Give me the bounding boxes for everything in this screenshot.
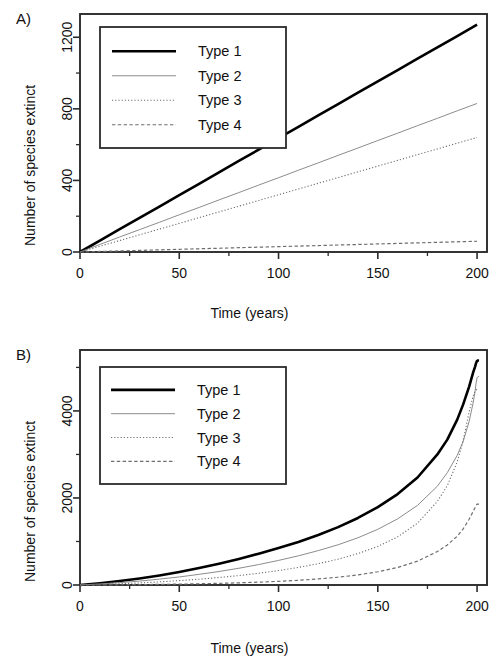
panel-a-plot: 05010015020004008001200Type 1Type 2Type … bbox=[0, 0, 499, 330]
y-tick-label: 0 bbox=[59, 248, 75, 256]
y-tick-label: 400 bbox=[59, 169, 75, 193]
series-line-type-4 bbox=[80, 241, 477, 252]
legend-label-type-4: Type 4 bbox=[198, 117, 242, 133]
x-tick-label: 0 bbox=[76, 265, 84, 281]
x-tick-label: 50 bbox=[171, 598, 187, 614]
y-axis-ticks: 020004000 bbox=[59, 367, 80, 588]
x-tick-label: 50 bbox=[171, 265, 187, 281]
x-tick-label: 200 bbox=[465, 598, 489, 614]
x-tick-label: 100 bbox=[267, 598, 291, 614]
x-tick-label: 150 bbox=[366, 265, 390, 281]
legend: Type 1Type 2Type 3Type 4 bbox=[100, 27, 286, 148]
panel-a-y-axis-label: Number of species extinct bbox=[22, 85, 38, 246]
panel-a-x-axis-label: Time (years) bbox=[0, 305, 499, 321]
y-tick-label: 0 bbox=[59, 581, 75, 589]
x-tick-label: 100 bbox=[267, 265, 291, 281]
legend-label-type-3: Type 3 bbox=[198, 92, 242, 108]
series-line-type-4 bbox=[80, 504, 479, 585]
y-tick-label: 4000 bbox=[59, 395, 75, 426]
legend-box bbox=[100, 367, 286, 484]
x-tick-label: 150 bbox=[366, 598, 390, 614]
legend-label-type-1: Type 1 bbox=[197, 382, 241, 398]
y-tick-label: 800 bbox=[59, 97, 75, 121]
panel-b-x-axis-label: Time (years) bbox=[0, 640, 499, 656]
legend-label-type-2: Type 2 bbox=[198, 68, 242, 84]
figure-container: A) Number of species extinct Time (years… bbox=[0, 0, 499, 667]
legend: Type 1Type 2Type 3Type 4 bbox=[100, 367, 286, 484]
y-axis-ticks: 04008001200 bbox=[59, 21, 80, 255]
panel-b-plot: 050100150200020004000Type 1Type 2Type 3T… bbox=[0, 330, 499, 667]
x-tick-label: 200 bbox=[465, 265, 489, 281]
series-line-type-3 bbox=[80, 137, 477, 252]
y-tick-label: 2000 bbox=[59, 482, 75, 513]
legend-label-type-2: Type 2 bbox=[197, 406, 241, 422]
legend-label-type-3: Type 3 bbox=[197, 430, 241, 446]
x-axis-ticks: 050100150200 bbox=[76, 252, 489, 281]
panel-a: A) Number of species extinct Time (years… bbox=[0, 0, 499, 330]
panel-b-letter: B) bbox=[16, 346, 31, 363]
panel-a-letter: A) bbox=[16, 10, 31, 27]
legend-label-type-4: Type 4 bbox=[197, 453, 241, 469]
panel-b-y-axis-label: Number of species extinct bbox=[22, 421, 38, 582]
x-tick-label: 0 bbox=[76, 598, 84, 614]
legend-label-type-1: Type 1 bbox=[198, 43, 242, 59]
x-axis-ticks: 050100150200 bbox=[76, 585, 489, 614]
panel-b: B) Number of species extinct Time (years… bbox=[0, 330, 499, 667]
legend-box bbox=[100, 27, 286, 148]
y-tick-label: 1200 bbox=[59, 21, 75, 52]
